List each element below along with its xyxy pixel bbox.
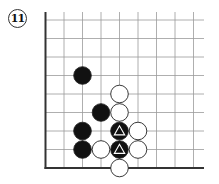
white-stone [111, 104, 129, 122]
white-stone [111, 85, 129, 103]
stone-disc [111, 85, 129, 103]
stone-disc [129, 122, 147, 140]
black-stone [92, 104, 110, 122]
white-stone [111, 159, 129, 177]
stone-disc [129, 141, 147, 159]
white-stone [129, 141, 147, 159]
black-stone [74, 122, 92, 140]
black-stone [111, 122, 129, 140]
stone-disc [92, 104, 110, 122]
stone-disc [74, 122, 92, 140]
stone-disc [74, 67, 92, 85]
go-board [0, 0, 219, 184]
black-stone [74, 141, 92, 159]
stone-disc [111, 104, 129, 122]
stones-layer [74, 67, 147, 177]
stone-disc [111, 159, 129, 177]
stone-disc [74, 141, 92, 159]
black-stone [74, 67, 92, 85]
stone-disc [92, 141, 110, 159]
white-stone [92, 141, 110, 159]
black-stone [111, 141, 129, 159]
white-stone [129, 122, 147, 140]
